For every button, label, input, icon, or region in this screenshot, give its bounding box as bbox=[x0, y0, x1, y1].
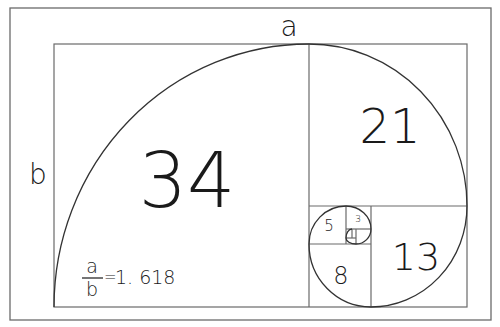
square-label-21: 21 bbox=[359, 98, 420, 154]
left-side-label: b bbox=[29, 158, 47, 191]
spiral-arc-1a bbox=[346, 238, 356, 244]
golden-ratio-formula: a b = 1. 618 bbox=[82, 255, 175, 300]
spiral-arc-1b bbox=[346, 229, 352, 238]
square-label-8: 8 bbox=[333, 262, 348, 290]
formula-denominator: b bbox=[86, 278, 98, 300]
square-label-34: 34 bbox=[139, 136, 236, 225]
square-label-5: 5 bbox=[324, 217, 334, 235]
formula-value: 1. 618 bbox=[115, 266, 175, 288]
golden-spiral-diagram: 34 21 13 8 5 3 a b a b = 1. 618 bbox=[0, 0, 500, 327]
top-side-label: a bbox=[280, 10, 297, 43]
square-label-13: 13 bbox=[392, 235, 440, 279]
formula-numerator: a bbox=[86, 255, 98, 277]
spiral-arc-2 bbox=[356, 229, 371, 244]
square-label-3: 3 bbox=[355, 214, 361, 224]
